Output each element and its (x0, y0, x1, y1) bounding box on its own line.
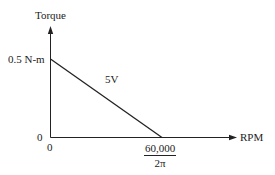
y-axis-title: Torque (35, 9, 66, 21)
y-tick-max: 0.5 N-m (8, 53, 45, 65)
y-tick-zero: 0 (37, 131, 43, 143)
x-tick-max-fraction: 60,000 2π (144, 142, 176, 169)
x-tick-max-numerator: 60,000 (144, 142, 176, 156)
y-axis-arrow-icon (48, 26, 53, 34)
x-axis-title: RPM (240, 131, 263, 143)
x-tick-zero: 0 (47, 141, 53, 153)
x-tick-max-denominator: 2π (144, 156, 176, 169)
x-axis-arrow-icon (229, 135, 237, 140)
torque-speed-line (51, 59, 163, 138)
series-label: 5V (105, 73, 118, 85)
chart-canvas (0, 0, 275, 175)
